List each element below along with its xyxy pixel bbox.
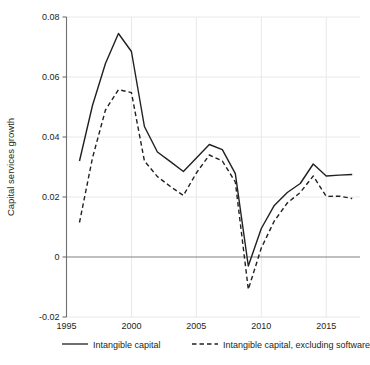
chart-background [0,0,370,365]
y-tick-label: 0.04 [42,132,60,142]
x-tick-label: 2010 [251,321,271,331]
y-tick-label: 0.08 [42,12,60,22]
y-tick-label: 0.02 [42,192,60,202]
y-axis-title: Capital services growth [5,118,16,216]
y-tick-label: 0.06 [42,72,60,82]
x-tick-label: 1995 [56,321,76,331]
x-tick-label: 2005 [186,321,206,331]
x-tick-label: 2015 [316,321,336,331]
legend-label-intangible-capital-excluding-software: Intangible capital, excluding software [223,340,370,350]
capital-services-growth-chart: -0.0200.020.040.060.08 19952000200520102… [0,0,370,365]
legend-label-intangible-capital: Intangible capital [93,340,161,350]
x-tick-label: 2000 [121,321,141,331]
y-tick-label: 0 [54,252,59,262]
